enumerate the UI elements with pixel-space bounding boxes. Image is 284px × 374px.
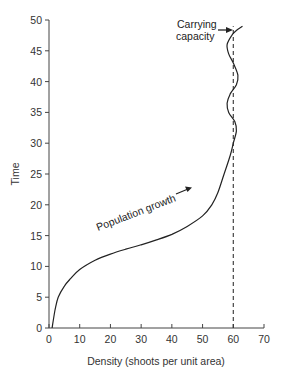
y-tick-label: 5 <box>36 291 42 303</box>
capacity-label-line2: capacity <box>176 30 215 42</box>
x-axis: 010203040506070 <box>46 324 270 345</box>
x-tick-label: 30 <box>135 333 147 345</box>
x-tick-label: 10 <box>74 333 86 345</box>
population-growth-curve <box>52 26 242 328</box>
growth-arrow-shaft <box>176 189 188 194</box>
y-tick-label: 25 <box>30 168 42 180</box>
growth-label: Population growth <box>94 191 177 232</box>
y-tick-label: 45 <box>30 45 42 57</box>
y-axis-title: Time <box>9 162 21 185</box>
capacity-arrowhead-icon <box>226 27 233 33</box>
y-tick-label: 10 <box>30 260 42 272</box>
y-tick-label: 30 <box>30 137 42 149</box>
x-tick-label: 60 <box>227 333 239 345</box>
growth-annotation: Population growth <box>94 187 192 233</box>
capacity-annotation: Carrying capacity <box>176 18 233 42</box>
y-tick-label: 50 <box>30 14 42 26</box>
capacity-label-line1: Carrying <box>177 18 217 30</box>
y-axis: 05101520253035404550 <box>30 14 49 334</box>
x-tick-label: 70 <box>258 333 270 345</box>
y-tick-label: 15 <box>30 230 42 242</box>
x-tick-label: 0 <box>46 333 52 345</box>
x-tick-label: 40 <box>166 333 178 345</box>
x-tick-label: 50 <box>197 333 209 345</box>
y-tick-label: 20 <box>30 199 42 211</box>
population-growth-chart: 05101520253035404550 010203040506070 Tim… <box>0 0 284 374</box>
y-tick-label: 40 <box>30 76 42 88</box>
y-tick-label: 0 <box>36 322 42 334</box>
y-tick-label: 35 <box>30 106 42 118</box>
x-axis-title: Density (shoots per unit area) <box>87 355 225 367</box>
x-tick-label: 20 <box>105 333 117 345</box>
